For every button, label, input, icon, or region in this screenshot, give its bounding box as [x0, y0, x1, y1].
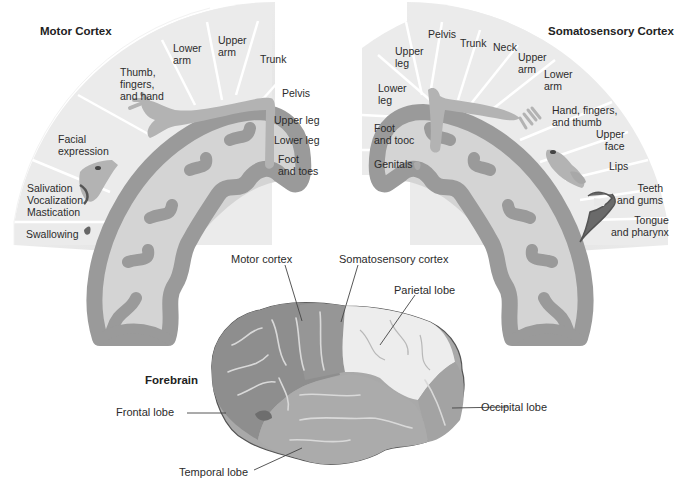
forebrain-label-somatosensory-cortex: Somatosensory cortex	[339, 253, 448, 265]
sensory-label-tongue-pharynx: Tongue and pharynx	[611, 214, 669, 238]
forebrain-label-motor-cortex: Motor cortex	[231, 253, 292, 265]
forebrain-label-occipital-lobe: Occipital lobe	[481, 401, 547, 413]
sensory-label-neck: Neck	[493, 41, 517, 53]
motor-label-swallowing: Swallowing	[26, 228, 79, 240]
forebrain-label-temporal-lobe: Temporal lobe	[179, 466, 248, 478]
sensory-label-pelvis: Pelvis	[428, 28, 456, 40]
sensory-label-genitals: Genitals	[374, 158, 413, 170]
motor-label-thumb-fingers-hand: Thumb, fingers, and hand	[120, 66, 164, 102]
sensory-label-teeth-gums: Teeth and gums	[617, 182, 663, 206]
sensory-label-upper-face: Upper face	[596, 128, 625, 152]
sensory-label-upper-leg: Upper leg	[395, 45, 424, 69]
motor-label-trunk: Trunk	[260, 53, 286, 65]
sensory-label-upper-arm: Upper arm	[518, 51, 547, 75]
motor-cortex-title: Motor Cortex	[40, 25, 112, 37]
sensory-label-lower-arm: Lower arm	[544, 68, 573, 92]
sensory-label-hand-fingers-thumb: Hand, fingers, and thumb	[552, 104, 617, 128]
motor-label-foot-toes: Foot and toes	[278, 153, 318, 177]
motor-label-upper-arm: Upper arm	[218, 34, 247, 58]
sensory-label-lips: Lips	[609, 160, 628, 172]
motor-label-upper-leg: Upper leg	[274, 114, 320, 126]
motor-label-lower-arm: Lower arm	[173, 42, 202, 66]
motor-label-pelvis: Pelvis	[282, 87, 310, 99]
sensory-label-foot-toes: Foot and tooc	[374, 122, 414, 146]
motor-label-facial-expression: Facial expression	[58, 133, 109, 157]
forebrain-label-parietal-lobe: Parietal lobe	[394, 284, 455, 296]
sensory-label-trunk: Trunk	[460, 37, 486, 49]
forebrain-illustration	[187, 265, 508, 470]
motor-label-lower-leg: Lower leg	[274, 134, 320, 146]
diagram-canvas	[0, 0, 682, 498]
forebrain-label-frontal-lobe: Frontal lobe	[116, 406, 174, 418]
forebrain-title: Forebrain	[145, 374, 198, 386]
somatosensory-cortex-title: Somatosensory Cortex	[548, 25, 674, 37]
sensory-label-lower-leg: Lower leg	[378, 82, 407, 106]
motor-label-salivation: Salivation Vocalization Mastication	[27, 182, 83, 218]
